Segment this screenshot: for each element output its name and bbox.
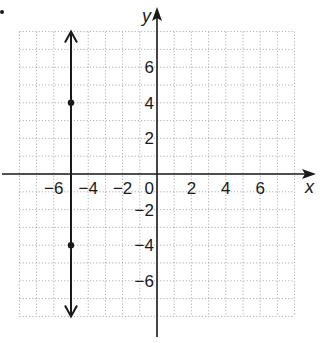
- x-tick-label: 6: [255, 179, 264, 198]
- x-tick-label: −6: [44, 179, 63, 198]
- y-tick-label: 2: [145, 129, 154, 148]
- y-tick-label: −6: [135, 272, 154, 291]
- x-axis-label: x: [304, 177, 315, 197]
- y-axis-label: y: [140, 6, 152, 26]
- corner-mark: [0, 10, 4, 14]
- y-tick-label: 6: [145, 58, 154, 77]
- y-tick-label: −4: [135, 236, 154, 255]
- x-tick-label: 4: [221, 179, 230, 198]
- x-tick-label: 0: [145, 179, 154, 198]
- x-tick-label: −2: [113, 179, 132, 198]
- x-tick-label: −4: [79, 179, 98, 198]
- coordinate-plane: −6−4−20246−6−4−2246 x y: [0, 0, 326, 343]
- axes: [2, 7, 316, 337]
- data-point: [68, 242, 74, 248]
- data-point: [68, 100, 74, 106]
- x-tick-label: 2: [187, 179, 196, 198]
- y-tick-label: 4: [145, 94, 154, 113]
- y-tick-label: −2: [135, 201, 154, 220]
